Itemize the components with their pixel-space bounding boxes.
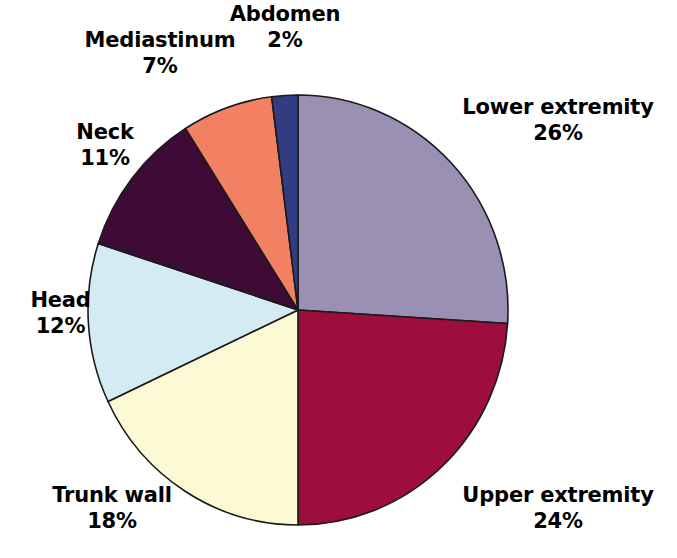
pie-label-upper-extremity-value: 24% xyxy=(448,509,668,535)
pie-chart: Abdomen 2% Mediastinum 7% Neck 11% Head … xyxy=(0,0,677,558)
pie-label-lower-extremity-value: 26% xyxy=(448,121,668,147)
pie-label-neck-value: 11% xyxy=(45,146,165,172)
pie-label-lower-extremity: Lower extremity 26% xyxy=(448,95,668,146)
pie-label-neck: Neck 11% xyxy=(45,120,165,171)
pie-label-head-name: Head xyxy=(3,288,118,314)
pie-label-head: Head 12% xyxy=(3,288,118,339)
pie-label-upper-extremity-name: Upper extremity xyxy=(448,483,668,509)
pie-label-abdomen-name: Abdomen xyxy=(195,2,375,28)
pie-label-mediastinum-value: 7% xyxy=(70,54,250,80)
pie-label-mediastinum: Mediastinum 7% xyxy=(70,28,250,79)
pie-label-neck-name: Neck xyxy=(45,120,165,146)
pie-label-head-value: 12% xyxy=(3,314,118,340)
pie-label-upper-extremity: Upper extremity 24% xyxy=(448,483,668,534)
pie-label-trunk-wall-name: Trunk wall xyxy=(22,483,202,509)
pie-label-lower-extremity-name: Lower extremity xyxy=(448,95,668,121)
pie-label-trunk-wall: Trunk wall 18% xyxy=(22,483,202,534)
pie-label-trunk-wall-value: 18% xyxy=(22,509,202,535)
pie-chart-graphic xyxy=(0,0,677,558)
pie-label-mediastinum-name: Mediastinum xyxy=(70,28,250,54)
